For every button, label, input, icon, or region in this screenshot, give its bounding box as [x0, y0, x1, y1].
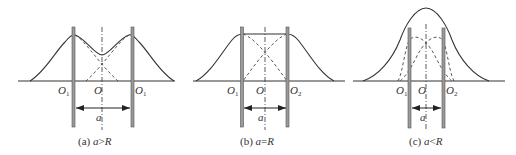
label-o-center: O	[94, 84, 102, 96]
electrode-bar-right	[131, 27, 134, 127]
figure-canvas: O1 O O1 a (a) a>R O1 O O2 a (b) a=R O1 O…	[0, 0, 516, 155]
label-o2-right: O2	[290, 84, 302, 98]
label-distance-a: a	[96, 111, 102, 123]
panel-b: O1 O O2 a (b) a=R	[193, 27, 345, 148]
electrode-bar-left	[241, 27, 244, 127]
panel-c: O1 O O2 a (c) a<R	[353, 8, 505, 148]
caption-a: (a) a>R	[78, 135, 112, 148]
label-o1-left: O1	[396, 84, 408, 98]
label-o1-left: O1	[227, 84, 239, 98]
label-distance-a: a	[258, 111, 264, 123]
electrode-bar-left	[408, 28, 411, 128]
label-o-center: O	[418, 84, 426, 96]
component-curve-left	[75, 35, 118, 81]
electrode-bar-right	[442, 28, 445, 128]
component-curve-right	[86, 35, 129, 81]
electrode-bar-right	[286, 27, 289, 127]
caption-b: (b) a=R	[240, 135, 274, 148]
label-o-center: O	[256, 84, 264, 96]
label-distance-a: a	[420, 111, 426, 123]
electrode-bar-left	[72, 27, 75, 127]
label-o2-right: O2	[446, 84, 458, 98]
caption-c: (c) a<R	[409, 135, 443, 148]
panel-a: O1 O O1 a (a) a>R	[18, 27, 175, 148]
label-o1-left: O1	[58, 84, 70, 98]
label-o-right: O1	[135, 84, 147, 98]
